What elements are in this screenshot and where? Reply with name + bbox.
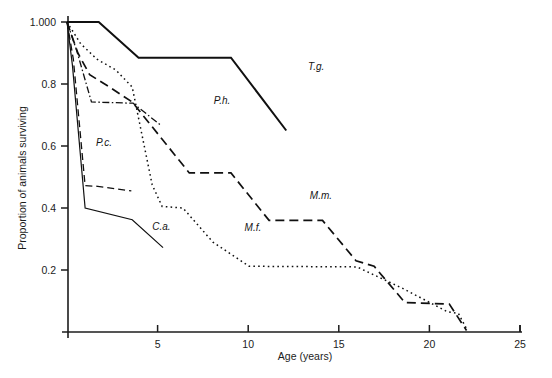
series-label-tg: T.g. <box>308 61 324 72</box>
x-axis-tick-label: 5 <box>155 338 161 350</box>
series-group <box>67 22 467 330</box>
axes: 0.20.40.60.81.000510152025 <box>30 16 526 350</box>
y-axis-title: Proportion of animals surviving <box>16 106 28 250</box>
series-label-mf: M.f. <box>245 222 262 233</box>
survival-curve-figure: 0.20.40.60.81.000510152025Proportion of … <box>0 0 552 378</box>
series-line-ca <box>67 22 163 248</box>
y-axis-tick-label: 0.2 <box>41 264 56 276</box>
series-label-ca: C.a. <box>152 221 170 232</box>
chart-canvas: 0.20.40.60.81.000510152025Proportion of … <box>0 0 552 378</box>
x-axis-title: Age (years) <box>278 350 332 362</box>
series-label-pc: P.c. <box>96 137 112 148</box>
series-line-mf <box>67 22 467 330</box>
series-line-ph <box>67 22 160 125</box>
x-axis-tick-label: 20 <box>424 338 436 350</box>
y-axis-tick-label: 0.6 <box>41 140 56 152</box>
y-axis-tick-label: 0.8 <box>41 78 56 90</box>
series-label-ph: P.h. <box>214 95 231 106</box>
x-axis-tick-label: 10 <box>242 338 254 350</box>
series-line-tg <box>67 22 286 131</box>
series-annotations: T.g.P.h.P.c.C.a.M.f.M.m. <box>96 61 332 233</box>
x-axis-tick-label: 15 <box>333 338 345 350</box>
series-label-mm: M.m. <box>310 190 332 201</box>
series-line-mm <box>67 22 467 330</box>
x-axis-tick-label: 25 <box>514 338 526 350</box>
y-axis-tick-label: 0.4 <box>41 202 56 214</box>
axis-titles: Proportion of animals survivingAge (year… <box>16 106 332 362</box>
y-axis-tick-label: 1.000 <box>30 16 56 28</box>
